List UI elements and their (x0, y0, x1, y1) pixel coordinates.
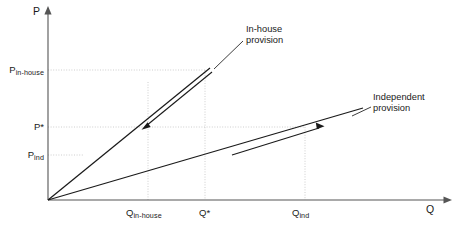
y-tick-p-in-house-subscript: in-house (16, 68, 44, 77)
y-tick-p-star-marker: * (40, 121, 44, 132)
x-tick-q-star: Q* (199, 207, 210, 218)
annotation-independent-line1: Independent (373, 92, 425, 103)
independent-provision-line (48, 108, 363, 200)
in-house-label-leader (214, 41, 243, 69)
annotation-in-house-line1: In-house (246, 24, 283, 35)
x-axis-arrowhead (444, 196, 453, 203)
x-tick-q-star-marker: * (206, 207, 210, 218)
x-axis-label: Q (426, 203, 434, 215)
vertical-gridlines (148, 70, 305, 200)
x-tick-q-ind-subscript: ind (299, 211, 309, 220)
y-axis-arrowhead (44, 6, 51, 15)
y-tick-p-in-house: Pin-house (0, 64, 44, 75)
y-tick-p-ind-subscript: ind (34, 153, 44, 162)
x-tick-q-in-house-subscript: in-house (133, 211, 161, 220)
in-house-provision-line (48, 68, 210, 200)
y-axis-label: P (33, 5, 40, 17)
independent-annotation-arrow (232, 128, 319, 155)
annotation-independent-line2: provision (373, 103, 425, 114)
horizontal-gridlines (48, 70, 305, 155)
annotation-in-house-line2: provision (246, 35, 283, 46)
diagram-canvas (0, 0, 456, 232)
y-tick-p-star: P* (0, 121, 44, 132)
y-tick-p-in-house-base: P (9, 64, 15, 75)
provision-cost-diagram: P Q Pin-house P* Pind Qin-house Q* Qind … (0, 0, 456, 232)
annotation-in-house-provision: In-house provision (246, 24, 283, 46)
x-tick-q-ind: Qind (292, 207, 309, 218)
annotation-independent-provision: Independent provision (373, 92, 425, 114)
x-tick-q-in-house: Qin-house (126, 207, 162, 218)
independent-arrowhead (316, 123, 325, 130)
in-house-annotation-arrow (146, 72, 212, 126)
y-tick-p-ind: Pind (0, 149, 44, 160)
